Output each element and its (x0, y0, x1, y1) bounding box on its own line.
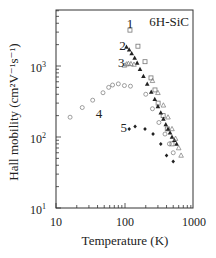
y-axis-label: Hall mobility (cm²V⁻¹s⁻¹) (6, 43, 21, 180)
data-point (167, 142, 171, 146)
data-point (156, 90, 161, 94)
series-label: 1 (127, 16, 134, 31)
series-label: 2 (119, 38, 126, 53)
series-label: 4 (96, 106, 103, 121)
data-point (132, 55, 137, 59)
data-point (179, 153, 184, 157)
y-tick-label: 101 (30, 202, 46, 217)
data-point (145, 81, 150, 85)
data-point (166, 115, 171, 119)
series-labels: 12345 (96, 16, 133, 135)
data-point (128, 84, 132, 88)
data-point (171, 160, 175, 164)
series-label: 3 (118, 55, 125, 70)
data-point (141, 74, 146, 78)
data-point (144, 92, 148, 96)
data-point (138, 67, 143, 71)
data-point (80, 106, 84, 110)
data-point (165, 153, 169, 157)
data-point (150, 78, 155, 82)
chart-title: 6H-SiC (149, 14, 189, 29)
x-tick-labels: 10 100 1000 (50, 215, 206, 229)
data-point (133, 125, 137, 129)
data-point (143, 60, 147, 64)
data-point (161, 103, 166, 107)
data-point (122, 84, 126, 88)
data-point (107, 85, 111, 89)
data-point (176, 145, 181, 149)
y-tick-labels: 101 102 103 (30, 60, 46, 217)
x-tick-label: 1000 (182, 215, 206, 229)
data-point (157, 121, 161, 125)
data-point (170, 126, 175, 130)
data-point (158, 110, 163, 114)
x-tick-label: 10 (50, 215, 62, 229)
hall-mobility-chart: 12345 6H-SiC 10 100 1000 Temperature (K)… (0, 0, 216, 258)
data-point (111, 83, 115, 87)
data-point (163, 132, 167, 136)
series-label: 5 (121, 120, 128, 135)
y-tick-label: 103 (30, 60, 46, 75)
data-point (143, 127, 147, 131)
data-point (171, 151, 175, 155)
data-point (153, 88, 157, 92)
data-point (136, 44, 140, 48)
data-point (116, 82, 120, 86)
data-point (150, 107, 154, 111)
data-point (151, 132, 155, 136)
y-tick-label: 102 (30, 131, 46, 146)
data-point (68, 115, 72, 119)
data-point (101, 91, 105, 95)
x-axis-label: Temperature (K) (82, 233, 169, 248)
x-tick-label: 100 (116, 215, 134, 229)
data-point (129, 51, 134, 55)
data-point (127, 127, 131, 131)
data-point (152, 97, 157, 101)
data-point (159, 142, 163, 146)
data-point (91, 98, 95, 102)
data-point (170, 135, 175, 139)
data-point (163, 122, 168, 126)
